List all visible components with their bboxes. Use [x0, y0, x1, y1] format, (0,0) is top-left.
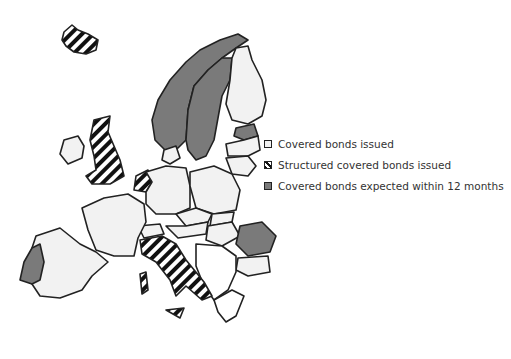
legend-label: Covered bonds issued — [278, 138, 394, 150]
striped-swatch-icon — [264, 161, 272, 169]
legend-item-structured-covered-bonds: Structured covered bonds issued — [264, 154, 504, 175]
country-romania — [236, 222, 276, 256]
legend-label: Structured covered bonds issued — [278, 159, 451, 171]
country-portugal — [20, 244, 44, 284]
legend-label: Covered bonds expected within 12 months — [278, 180, 504, 192]
legend-item-covered-bonds: Covered bonds issued — [264, 133, 504, 154]
country-bulgaria — [236, 256, 270, 276]
country-ireland — [60, 136, 84, 164]
country-france — [82, 194, 146, 256]
island-sicily — [166, 308, 184, 318]
legend-item-expected: Covered bonds expected within 12 months — [264, 175, 504, 196]
country-uk — [86, 116, 124, 184]
country-germany — [146, 166, 190, 214]
dark-swatch-icon — [264, 182, 272, 190]
legend: Covered bonds issued Structured covered … — [264, 133, 504, 196]
island-sardinia — [140, 272, 148, 294]
country-hungary — [206, 222, 240, 246]
country-finland — [226, 46, 266, 124]
country-iceland — [62, 25, 98, 54]
light-swatch-icon — [264, 140, 272, 148]
